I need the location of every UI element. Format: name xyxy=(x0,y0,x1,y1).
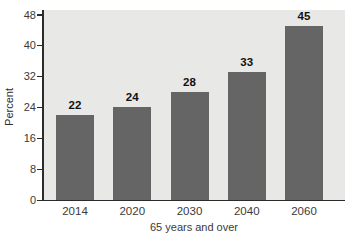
y-tick-label: 0 xyxy=(6,194,36,206)
bar-2014 xyxy=(56,115,94,200)
x-axis-title: 65 years and over xyxy=(43,221,345,233)
bar-value-label: 45 xyxy=(284,10,324,22)
y-axis-line xyxy=(42,10,44,200)
bar-2030 xyxy=(171,92,209,200)
y-tick-label: 16 xyxy=(6,132,36,144)
bar-chart: 081624324048 2224283345 2014202020302040… xyxy=(0,0,349,239)
bar-value-label: 24 xyxy=(112,91,152,103)
bar-2040 xyxy=(228,72,266,200)
bar-value-label: 33 xyxy=(227,56,267,68)
bar-value-label: 28 xyxy=(170,76,210,88)
y-axis-title: Percent xyxy=(3,88,15,126)
x-category-label: 2040 xyxy=(223,205,271,218)
y-tick-label: 32 xyxy=(6,70,36,82)
bar-value-label: 22 xyxy=(55,99,95,111)
y-tick-label: 48 xyxy=(6,9,36,21)
bar-2020 xyxy=(113,107,151,200)
y-tick-label: 8 xyxy=(6,163,36,175)
x-category-label: 2014 xyxy=(51,205,99,218)
x-axis-line xyxy=(42,200,345,202)
x-category-label: 2030 xyxy=(166,205,214,218)
x-category-label: 2020 xyxy=(108,205,156,218)
x-category-label: 2060 xyxy=(280,205,328,218)
y-tick-label: 40 xyxy=(6,39,36,51)
bar-2060 xyxy=(285,26,323,200)
